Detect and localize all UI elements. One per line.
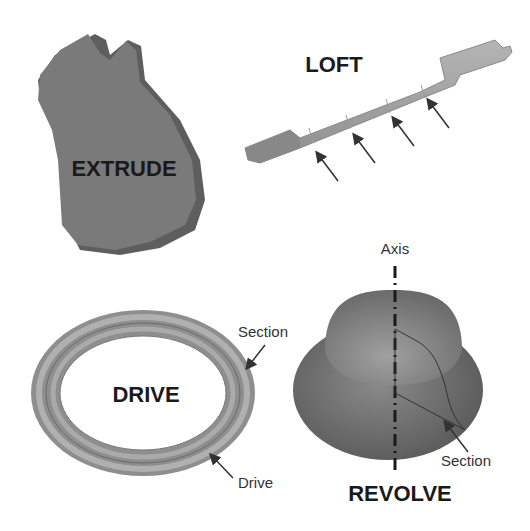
loft-panel: LOFT	[245, 40, 512, 181]
loft-section-arrow	[393, 118, 414, 146]
extrude-panel: EXTRUDE	[38, 34, 205, 255]
drive-section-label: Section	[238, 323, 288, 340]
revolve-title: REVOLVE	[348, 481, 452, 506]
revolve-panel: Axis Section REVOLVE	[293, 240, 491, 506]
loft-end-tab-left	[245, 130, 300, 163]
extrude-front-face	[38, 34, 196, 250]
drive-title: DRIVE	[112, 382, 179, 407]
drive-drive-arrow	[211, 455, 233, 478]
extrude-title: EXTRUDE	[71, 156, 176, 181]
loft-section-arrow	[354, 135, 375, 163]
modeling-operations-diagram: EXTRUDE LOFT DRIVE Section Drive Axis	[0, 0, 530, 531]
revolve-axis-label: Axis	[381, 240, 409, 257]
drive-panel: DRIVE Section Drive	[31, 310, 288, 491]
loft-section-arrow	[317, 153, 338, 181]
loft-title: LOFT	[305, 52, 363, 77]
drive-drive-label: Drive	[238, 474, 273, 491]
drive-section-arrow	[247, 345, 265, 368]
loft-section-arrow	[428, 100, 449, 128]
revolve-section-label: Section	[441, 452, 491, 469]
